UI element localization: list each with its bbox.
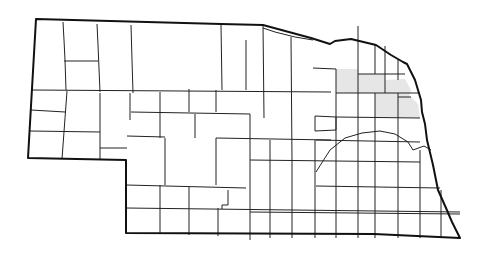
state-outline <box>28 19 460 238</box>
county-wayne <box>358 74 385 93</box>
nebraska-county-map <box>0 0 488 253</box>
county-cuming <box>375 93 398 117</box>
county-pierce <box>336 69 358 93</box>
county-lines <box>30 22 460 240</box>
county-burt <box>398 97 420 118</box>
